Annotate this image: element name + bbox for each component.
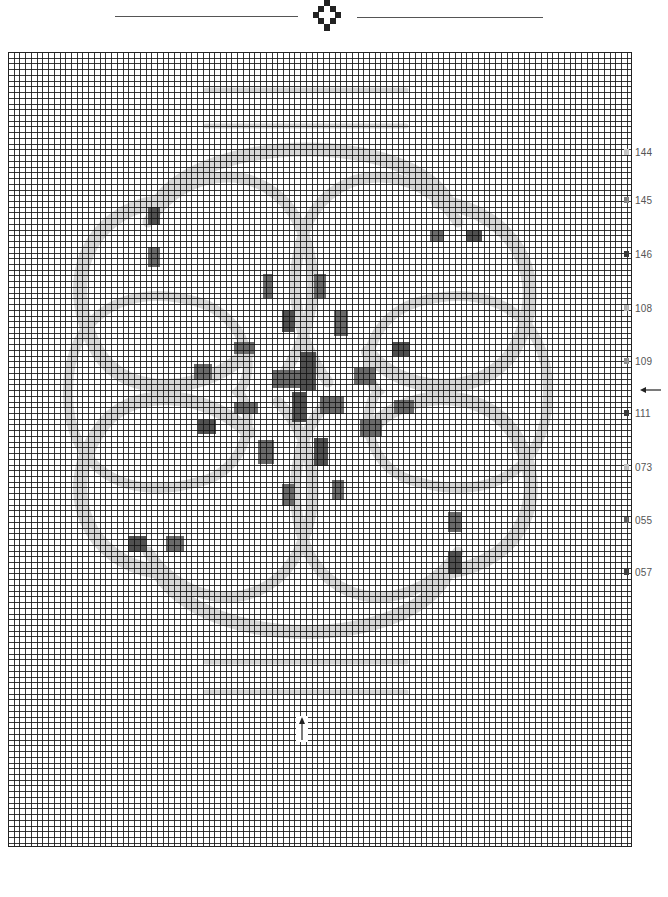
color-swatch [624,410,629,416]
dark-stitch-block [314,274,326,298]
color-swatch [624,464,629,470]
legend-item: 057 [624,566,652,578]
dark-stitch-block [332,480,344,500]
legend-item: 108 [624,302,652,314]
dark-stitch-block [148,247,160,267]
dark-stitch-block [448,512,462,532]
thread-code: 109 [635,356,652,367]
dark-stitch-block [234,342,254,354]
dark-stitch-block [198,420,216,434]
thread-code: 111 [635,408,651,419]
dark-stitch-block [272,370,302,388]
dark-stitch-block [354,368,376,384]
legend-item: 111 [624,407,651,419]
legend-item: 144 [624,146,652,158]
color-swatch [624,358,629,364]
color-swatch [624,251,629,257]
dark-stitch-block [166,536,184,552]
stitch-design [8,52,631,846]
header-rule-right [357,17,543,18]
thread-code: 144 [635,147,652,158]
dark-stitch-block [394,400,414,414]
thread-code: 108 [635,303,652,314]
color-swatch [624,305,629,311]
dark-stitch-block [194,364,212,380]
color-swatch [624,569,629,575]
dark-stitch-block [300,352,316,390]
diamond-cross-ornament-icon [307,0,347,36]
dark-stitch-block [282,484,294,506]
legend-item: 146 [624,248,652,260]
thread-legend: 144145146108109111073055057 [624,0,668,897]
dark-stitch-block [392,342,410,356]
band-big-arc-bottom [158,572,448,632]
dark-stitch-block [292,392,306,422]
legend-item: 145 [624,194,652,206]
dark-stitch-block [360,420,382,436]
band-inner-arc-top-left [148,177,313,382]
dark-stitch-block [128,536,146,552]
dark-stitch-block [258,440,274,464]
thread-code: 055 [635,515,652,526]
legend-item: 055 [624,514,652,526]
thread-code: 145 [635,195,652,206]
color-swatch [624,517,629,523]
dark-stitch-block [430,230,444,242]
row-center-left-arrow-icon [640,385,662,395]
cross-stitch-chart [8,52,631,846]
legend-item: 109 [624,355,652,367]
dark-stitch-block [320,396,344,414]
column-center-up-arrow-icon [296,716,308,742]
dark-stitch-block [263,274,273,298]
dark-stitch-block [234,402,258,414]
color-swatch [624,197,629,203]
color-swatch [624,149,629,155]
dark-stitch-block [282,310,294,332]
dark-stitch-block [148,207,160,225]
header-rule-left [115,16,298,17]
thread-code: 057 [635,567,652,578]
legend-item: 073 [624,461,652,473]
thread-code: 146 [635,249,652,260]
thread-code: 073 [635,462,652,473]
dark-stitch-block [314,438,328,466]
dark-stitch-block [466,230,482,242]
band-mid-right-loop [368,296,548,488]
dark-stitch-block [448,552,462,574]
dark-stitch-block [334,310,348,336]
